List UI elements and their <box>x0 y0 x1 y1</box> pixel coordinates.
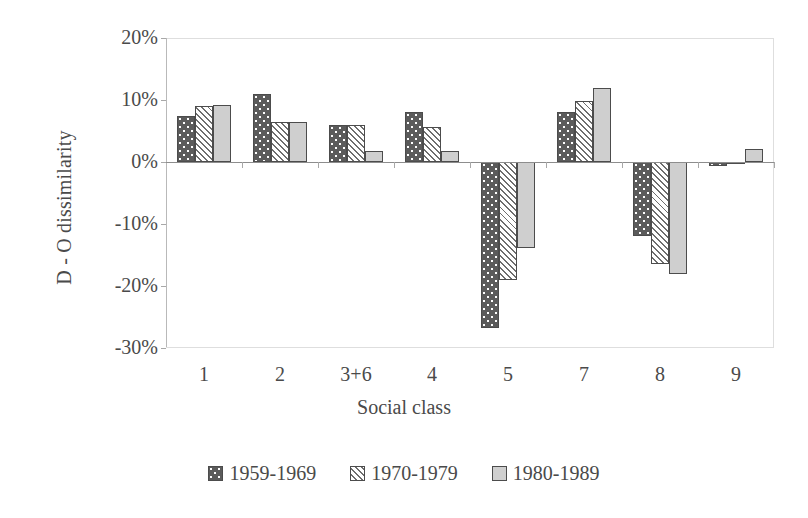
x-axis-tick-label: 7 <box>579 364 589 384</box>
x-axis-tick-label: 3+6 <box>340 364 371 384</box>
legend-swatch-icon <box>350 466 365 481</box>
legend-item[interactable]: 1970-1979 <box>350 462 458 485</box>
bar[interactable] <box>575 101 593 162</box>
bar[interactable] <box>347 125 365 162</box>
y-axis-tick-mark <box>161 286 166 287</box>
y-axis-tick-label: 10% <box>88 89 158 109</box>
y-axis-tick-label: -10% <box>88 213 158 233</box>
y-axis-tick-mark <box>161 100 166 101</box>
x-axis-tick-mark <box>470 162 471 168</box>
y-axis-tick-mark <box>161 348 166 349</box>
legend-label: 1970-1979 <box>371 462 458 485</box>
plot-border-top <box>166 38 774 39</box>
bar[interactable] <box>177 116 195 163</box>
x-axis-tick-label: 4 <box>427 364 437 384</box>
y-axis-title: D - O dissimilarity <box>53 58 76 358</box>
plot-border-right <box>773 38 774 348</box>
x-axis-tick-label: 9 <box>731 364 741 384</box>
y-axis-tick-label: -30% <box>88 337 158 357</box>
x-axis-title: Social class <box>0 396 808 419</box>
chart-legend: 1959-19691970-19791980-1989 <box>0 462 808 485</box>
y-axis-tick-mark <box>161 162 166 163</box>
legend-label: 1980-1989 <box>513 462 600 485</box>
bar[interactable] <box>195 106 213 162</box>
bar[interactable] <box>669 162 687 274</box>
legend-label: 1959-1969 <box>229 462 316 485</box>
x-axis-tick-label: 1 <box>199 364 209 384</box>
legend-item[interactable]: 1959-1969 <box>208 462 316 485</box>
bar[interactable] <box>423 127 441 162</box>
bar[interactable] <box>289 122 307 162</box>
chart-container: D - O dissimilarity 20%10%0%-10%-20%-30%… <box>0 0 808 518</box>
bar[interactable] <box>517 162 535 248</box>
bar[interactable] <box>213 105 231 162</box>
bar[interactable] <box>441 151 459 162</box>
y-axis-tick-label: 0% <box>88 151 158 171</box>
y-axis-tick-mark <box>161 38 166 39</box>
legend-item[interactable]: 1980-1989 <box>492 462 600 485</box>
x-axis-tick-label: 5 <box>503 364 513 384</box>
x-axis-tick-mark <box>698 162 699 168</box>
bar[interactable] <box>499 162 517 280</box>
bar[interactable] <box>593 88 611 162</box>
plot-border-left <box>166 38 167 348</box>
bar[interactable] <box>745 149 763 162</box>
bar[interactable] <box>557 112 575 162</box>
y-axis-tick-label: -20% <box>88 275 158 295</box>
x-axis-tick-mark <box>622 162 623 168</box>
x-axis-tick-label: 2 <box>275 364 285 384</box>
plot-border-bottom <box>166 347 774 348</box>
y-axis-tick-mark <box>161 224 166 225</box>
bar[interactable] <box>651 162 669 264</box>
x-axis-tick-mark <box>242 162 243 168</box>
x-axis-tick-mark <box>774 162 775 168</box>
bar[interactable] <box>253 94 271 162</box>
legend-swatch-icon <box>208 466 223 481</box>
x-axis-tick-mark <box>546 162 547 168</box>
legend-swatch-icon <box>492 466 507 481</box>
x-axis-tick-mark <box>394 162 395 168</box>
y-axis-tick-labels: 20%10%0%-10%-20%-30% <box>86 0 158 518</box>
x-axis-tick-label: 8 <box>655 364 665 384</box>
bar[interactable] <box>481 162 499 328</box>
y-axis-tick-label: 20% <box>88 27 158 47</box>
bar[interactable] <box>365 151 383 162</box>
bar[interactable] <box>329 125 347 162</box>
x-axis-tick-mark <box>318 162 319 168</box>
bar[interactable] <box>271 122 289 162</box>
plot-area <box>166 38 774 348</box>
bar[interactable] <box>405 112 423 162</box>
bar[interactable] <box>633 162 651 236</box>
